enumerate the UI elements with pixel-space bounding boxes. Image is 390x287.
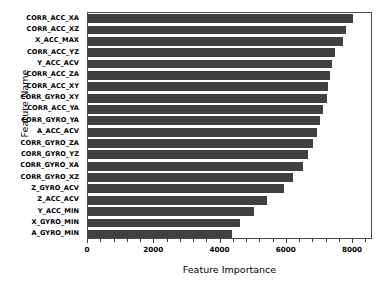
y-tick-label: Y_ACC_ACV (37, 59, 79, 67)
bar-row (88, 207, 371, 216)
x-minor-tick (233, 239, 234, 242)
bar (88, 162, 303, 171)
x-minor-tick (140, 239, 141, 242)
x-tick-label: 8000 (342, 245, 362, 254)
y-tick-label: CORR_GYRO_ZA (21, 139, 79, 147)
y-tick-label: CORR_ACC_XY (27, 82, 79, 90)
y-tick-label: CORR_GYRO_YZ (21, 150, 79, 158)
y-tick-label: A_ACC_ACV (37, 127, 79, 135)
bar (88, 60, 332, 69)
bar-row (88, 128, 371, 137)
x-major-tick (87, 239, 88, 243)
bar-row (88, 162, 371, 171)
figure: Feature Name CORR_ACC_XACORR_ACC_XZX_ACC… (0, 0, 390, 287)
x-major-tick (220, 239, 221, 243)
bar (88, 37, 343, 46)
bar (88, 116, 320, 125)
bar-row (88, 48, 371, 57)
bar (88, 230, 232, 239)
bar-row (88, 150, 371, 159)
bar (88, 26, 346, 35)
y-tick-label: CORR_GYRO_YA (21, 116, 79, 124)
bar (88, 128, 317, 137)
bar-row (88, 37, 371, 46)
x-minor-tick (206, 239, 207, 242)
y-tick-label: A_GYRO_MIN (32, 229, 79, 237)
bar (88, 14, 353, 23)
x-minor-tick (246, 239, 247, 242)
bar-row (88, 184, 371, 193)
y-tick-label: CORR_ACC_YZ (27, 48, 79, 56)
x-major-tick (286, 239, 287, 243)
x-tick-label: 6000 (276, 245, 296, 254)
bar (88, 150, 308, 159)
bar-row (88, 105, 371, 114)
x-major-tick (153, 239, 154, 243)
bar-row (88, 230, 371, 239)
bar (88, 71, 330, 80)
x-minor-tick (312, 239, 313, 242)
y-tick-label: CORR_ACC_ZA (27, 70, 79, 78)
y-tick-label: X_GYRO_MIN (32, 218, 79, 226)
y-tick-label: CORR_GYRO_XZ (21, 173, 79, 181)
bar (88, 139, 313, 148)
bar-row (88, 26, 371, 35)
x-major-tick (352, 239, 353, 243)
bar-row (88, 94, 371, 103)
x-minor-tick (339, 239, 340, 242)
y-tick-label: CORR_GYRO_XY (21, 93, 79, 101)
bar-row (88, 82, 371, 91)
x-minor-tick (180, 239, 181, 242)
bar-row (88, 196, 371, 205)
x-minor-tick (326, 239, 327, 242)
bar (88, 173, 293, 182)
bar-row (88, 60, 371, 69)
plot-area (87, 12, 372, 239)
x-minor-tick (167, 239, 168, 242)
bar-series (88, 13, 371, 238)
bar (88, 48, 335, 57)
x-minor-tick (193, 239, 194, 242)
x-minor-tick (259, 239, 260, 242)
bar (88, 105, 323, 114)
y-tick-label: Y_ACC_MIN (38, 207, 79, 215)
bar (88, 184, 284, 193)
x-minor-tick (100, 239, 101, 242)
x-tick-label: 2000 (143, 245, 163, 254)
bar-row (88, 116, 371, 125)
bar-row (88, 71, 371, 80)
y-axis-tick-labels: CORR_ACC_XACORR_ACC_XZX_ACC_MAXCORR_ACC_… (0, 12, 84, 239)
x-minor-tick (127, 239, 128, 242)
y-tick-label: Z_ACC_ACV (37, 195, 79, 203)
x-tick-label: 0 (84, 245, 89, 254)
y-tick-label: CORR_GYRO_XA (20, 161, 79, 169)
y-tick-label: CORR_ACC_XA (26, 14, 79, 22)
x-minor-tick (365, 239, 366, 242)
bar (88, 196, 267, 205)
y-tick-label: Z_GYRO_ACV (31, 184, 79, 192)
bar (88, 207, 254, 216)
bar-row (88, 139, 371, 148)
x-axis-title: Feature Importance (87, 264, 372, 275)
x-tick-label: 4000 (210, 245, 230, 254)
x-axis-ticks: 02000400060008000 (87, 239, 372, 261)
x-minor-tick (114, 239, 115, 242)
y-tick-label: X_ACC_MAX (35, 36, 79, 44)
bar-row (88, 219, 371, 228)
bar (88, 94, 327, 103)
bar (88, 219, 240, 228)
x-minor-tick (273, 239, 274, 242)
bar-row (88, 14, 371, 23)
x-minor-tick (299, 239, 300, 242)
bar-row (88, 173, 371, 182)
y-tick-label: CORR_ACC_XZ (27, 25, 79, 33)
y-tick-label: CORR_ACC_YA (27, 104, 79, 112)
bar (88, 82, 328, 91)
